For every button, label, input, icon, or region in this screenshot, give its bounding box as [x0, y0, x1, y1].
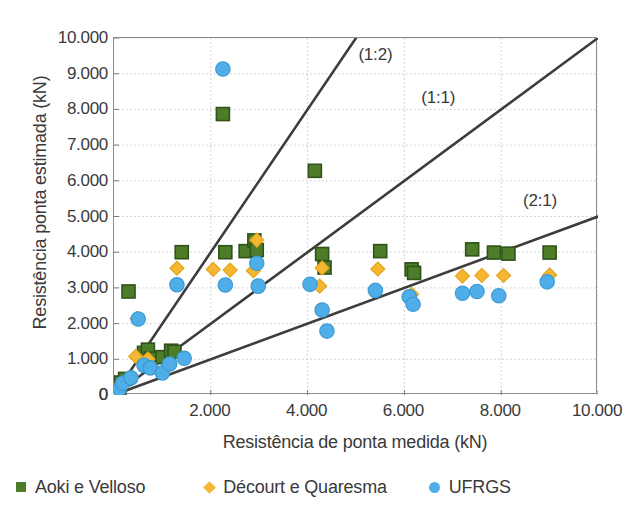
- x-tick-label: 6.000: [358, 402, 448, 419]
- y-tick-label: 9.000: [36, 65, 108, 82]
- data-point: [320, 324, 334, 338]
- plot-area: (1:2)(1:1)(2:1): [113, 37, 597, 394]
- data-point: [308, 164, 321, 177]
- data-point: [162, 357, 176, 371]
- data-point: [502, 247, 515, 260]
- data-point: [170, 277, 184, 291]
- origin-tick-label: 0: [36, 386, 108, 403]
- y-tick-label: 4.000: [36, 243, 108, 260]
- reference-line-label-1-1: (1:1): [421, 88, 455, 108]
- data-point: [455, 286, 469, 300]
- x-tick-label: 10.000: [552, 402, 632, 419]
- data-point: [219, 246, 232, 259]
- data-point: [374, 245, 387, 258]
- data-point: [216, 62, 230, 76]
- y-tick-label: 1.000: [36, 350, 108, 367]
- data-point: [316, 247, 329, 260]
- data-point: [251, 279, 265, 293]
- data-point: [131, 312, 145, 326]
- legend-circle-icon: [429, 482, 440, 493]
- legend-square-icon: [16, 482, 26, 492]
- y-tick-label-layer: 01.0002.0003.0004.0005.0006.0007.0008.00…: [26, 0, 108, 517]
- series-0: [114, 108, 556, 395]
- legend-item-label: Aoki e Velloso: [35, 477, 145, 498]
- y-tick-label: 5.000: [36, 208, 108, 225]
- data-point: [540, 275, 554, 289]
- y-tick-label: 6.000: [36, 172, 108, 189]
- data-point: [371, 262, 385, 276]
- data-point: [470, 284, 484, 298]
- data-point: [487, 246, 500, 259]
- legend-item-aoki-e-velloso[interactable]: Aoki e Velloso: [16, 477, 145, 498]
- data-point: [466, 243, 479, 256]
- plot-canvas: [114, 38, 598, 395]
- data-point: [475, 268, 489, 282]
- data-point: [406, 297, 420, 311]
- data-point: [206, 262, 220, 276]
- data-point: [223, 263, 237, 277]
- y-tick-label: 3.000: [36, 279, 108, 296]
- x-tick-label: 8.000: [455, 402, 545, 419]
- y-tick-label: 8.000: [36, 100, 108, 117]
- y-tick-label: 10.000: [36, 29, 108, 46]
- data-point: [303, 277, 317, 291]
- legend-item-label: UFRGS: [449, 477, 511, 498]
- data-point: [455, 269, 469, 283]
- legend-diamond-icon: [203, 481, 216, 494]
- data-point: [177, 351, 191, 365]
- legend-item-ufrgs[interactable]: UFRGS: [429, 477, 511, 498]
- x-tick-label: 2.000: [165, 402, 255, 419]
- data-point: [250, 256, 264, 270]
- data-point: [543, 246, 556, 259]
- data-point: [218, 278, 232, 292]
- data-markers: [114, 62, 557, 395]
- x-axis-title: Resistência de ponta medida (kN): [113, 432, 597, 453]
- x-tick-label-layer: 2.0004.0006.0008.00010.000: [113, 402, 597, 428]
- reference-line-label-2-1: (2:1): [523, 191, 557, 211]
- y-tick-label: 7.000: [36, 136, 108, 153]
- data-point: [122, 285, 135, 298]
- x-tick-label: 4.000: [262, 402, 352, 419]
- data-point: [216, 108, 229, 121]
- reference-line-label-1-2: (1:2): [358, 45, 392, 65]
- legend-item-d-court-e-quaresma[interactable]: Décourt e Quaresma: [205, 477, 386, 498]
- data-point: [175, 246, 188, 259]
- data-point: [492, 289, 506, 303]
- data-point: [315, 303, 329, 317]
- legend-item-label: Décourt e Quaresma: [223, 477, 386, 498]
- chart-legend: Aoki e VellosoDécourt e QuaresmaUFRGS: [16, 470, 632, 504]
- scatter-chart-figure: Resistência ponta estimada (kN) 01.0002.…: [0, 0, 632, 517]
- y-tick-label: 2.000: [36, 315, 108, 332]
- data-point: [368, 283, 382, 297]
- data-point: [408, 266, 421, 279]
- data-point: [124, 371, 138, 385]
- data-point: [170, 261, 184, 275]
- data-point: [497, 268, 511, 282]
